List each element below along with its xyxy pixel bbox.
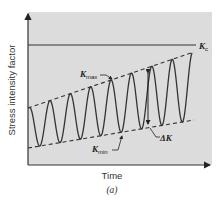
x-axis-label: Time	[0, 170, 224, 181]
delta-k-label: ΔK	[159, 133, 173, 143]
kmax-label: Kmax	[79, 69, 97, 80]
figure-caption: (a)	[0, 185, 224, 195]
y-axis-label: Stress intensity factor	[6, 25, 20, 155]
kmin-label: Kmin	[91, 144, 108, 155]
kmax-leader	[100, 75, 112, 79]
kc-label: Kc	[198, 41, 208, 52]
delta-k-leader	[150, 128, 160, 137]
fatigue-diagram: ΔK Kc Kmax Kmin Stress intensity factor …	[0, 0, 224, 205]
kmin-leader	[112, 136, 122, 150]
